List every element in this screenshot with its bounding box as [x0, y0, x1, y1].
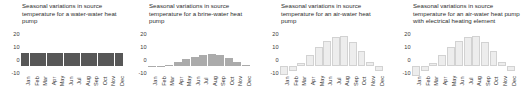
x-axis-tick-label: May [182, 80, 191, 106]
bar-column [412, 33, 421, 79]
bar-column [174, 33, 183, 79]
bar [481, 42, 489, 66]
x-axis-tick-label: Jul [199, 80, 208, 106]
bar-column [463, 33, 472, 79]
bar [315, 47, 323, 65]
x-axis-tick-label: Mar [429, 80, 438, 106]
x-axis-tick-label: Mar [297, 80, 306, 106]
x-axis-tick-label: Jan [148, 80, 157, 106]
bar [438, 55, 446, 66]
x-axis-tick-label: Oct [357, 80, 366, 106]
x-axis-tick-label: Apr [47, 80, 56, 106]
bar-column [455, 33, 464, 79]
bar-column [182, 33, 191, 79]
y-axis-tick-label: 0 [143, 57, 146, 63]
x-axis-tick-label: Mar [38, 80, 47, 106]
x-axis-tick-label: Sep [481, 80, 490, 106]
bar-column [357, 33, 366, 79]
bar-series [148, 33, 250, 79]
x-axis-tick-label: Aug [208, 80, 217, 106]
bar-column [323, 33, 332, 79]
chart-panel-2: Seasonal variations in source temperatur… [127, 0, 257, 107]
x-axis-tick-label: Dec [374, 80, 383, 106]
y-axis-tick-label: 10 [13, 44, 19, 50]
bar-column [331, 33, 340, 79]
bar [89, 53, 97, 66]
bar [490, 51, 498, 65]
x-axis-tick-label: Oct [225, 80, 234, 106]
bar-column [421, 33, 430, 79]
plot-area: 20100-10 JanFebMarAprMayJunJulAugSepOctN… [389, 0, 521, 107]
bar-series [280, 33, 383, 79]
bar-column [165, 33, 174, 79]
x-axis-tick-label: Nov [106, 80, 115, 106]
plot-area: 20100-10 JanFebMarAprMayJunJulAugSepOctN… [0, 0, 127, 107]
bar [81, 53, 89, 66]
bar [165, 65, 173, 66]
bar-column [498, 33, 507, 79]
bar [216, 55, 224, 66]
plot-area: 20100-10 JanFebMarAprMayJunJulAugSepOctN… [127, 0, 257, 107]
x-axis-tick-label: Feb [157, 80, 166, 106]
x-axis-tick-label: Sep [349, 80, 358, 106]
x-axis-tick-label: Jan [280, 80, 289, 106]
y-axis-tick-label: 10 [404, 44, 410, 50]
y-axis-tick-label: 10 [272, 44, 278, 50]
bar-column [289, 33, 298, 79]
bar [38, 53, 46, 66]
bar [106, 53, 114, 66]
bar-column [297, 33, 306, 79]
x-axis-tick-label: Jan [412, 80, 421, 106]
bar-column [314, 33, 323, 79]
bar-column [115, 33, 124, 79]
bar [72, 53, 80, 66]
bar-column [472, 33, 481, 79]
x-axis-labels: JanFebMarAprMayJunJulAugSepOctNovDec [21, 80, 123, 106]
x-axis-tick-label: Jul [72, 80, 81, 106]
bar [429, 63, 437, 66]
y-axis-tick-label: 10 [140, 44, 146, 50]
x-axis-tick-label: Nov [498, 80, 507, 106]
chart-panel-1: Seasonal variations in source temperatur… [0, 0, 127, 107]
bar [340, 36, 348, 66]
bar [306, 55, 314, 66]
bar-column [21, 33, 30, 79]
bar-column [280, 33, 289, 79]
bar-column [225, 33, 234, 79]
bar [98, 53, 106, 66]
x-axis-tick-label: Nov [233, 80, 242, 106]
x-axis-tick-label: Feb [289, 80, 298, 106]
bar [115, 53, 123, 66]
x-axis-tick-label: Apr [306, 80, 315, 106]
bar-column [489, 33, 498, 79]
bar [349, 42, 357, 66]
plot-area: 20100-10 JanFebMarAprMayJunJulAugSepOctN… [257, 0, 389, 107]
x-axis-tick-label: Aug [340, 80, 349, 106]
y-axis-tick-label: 20 [13, 31, 19, 37]
bar [199, 55, 207, 66]
y-axis-tick-label: 20 [140, 31, 146, 37]
bar-column [81, 33, 90, 79]
x-axis-labels: JanFebMarAprMayJunJulAugSepOctNovDec [412, 80, 515, 106]
y-axis-tick-label: 0 [16, 57, 19, 63]
bar [208, 54, 216, 66]
bar-series [21, 33, 123, 79]
bar [289, 66, 297, 71]
bar [225, 58, 233, 66]
x-axis-tick-label: Apr [438, 80, 447, 106]
x-axis-tick-label: Jan [21, 80, 30, 106]
axis-area: 20100-10 [412, 33, 515, 79]
x-axis-tick-label: Aug [81, 80, 90, 106]
bar-column [89, 33, 98, 79]
x-axis-tick-label: May [55, 80, 64, 106]
bar [323, 41, 331, 66]
x-axis-tick-label: Feb [30, 80, 39, 106]
bar [332, 37, 340, 66]
bar-column [38, 33, 47, 79]
axis-area: 20100-10 [148, 33, 250, 79]
bar-column [191, 33, 200, 79]
bar-column [306, 33, 315, 79]
y-axis-tick-label: 0 [275, 57, 278, 63]
x-axis-tick-label: Jun [323, 80, 332, 106]
x-axis-tick-label: Nov [366, 80, 375, 106]
